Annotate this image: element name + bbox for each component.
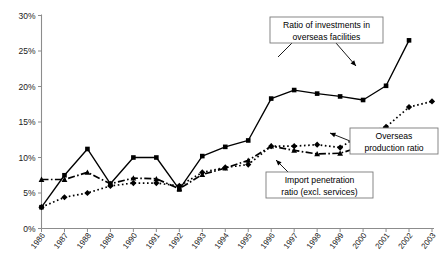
annotation-leader-line: [278, 43, 292, 57]
data-point-marker: [315, 91, 320, 96]
x-axis-tick-label: 1989: [98, 231, 116, 251]
data-point-marker: [154, 155, 159, 160]
data-point-marker: [61, 194, 67, 200]
data-point-marker: [361, 98, 366, 103]
x-axis-tick-label: 1997: [282, 231, 300, 251]
annotation-overseas-production-label: production ratio: [364, 143, 423, 153]
data-point-marker: [200, 154, 205, 159]
annotation-group: Ratio of investments inoverseas faciliti…: [266, 17, 438, 198]
data-point-marker: [84, 190, 90, 196]
annotation-import-penetration-label: Import penetration: [285, 175, 355, 185]
x-axis-tick-label: 1992: [167, 231, 185, 251]
y-axis-tick-label: 5%: [23, 188, 36, 198]
x-axis-tick-label: 1991: [144, 231, 162, 251]
data-point-marker: [269, 96, 274, 101]
x-axis-tick-label: 2001: [374, 231, 392, 251]
y-axis-tick-label: 25%: [18, 46, 35, 56]
x-axis: 1986198719881989199019911992199319941995…: [29, 229, 438, 251]
y-axis-tick-label: 15%: [18, 117, 35, 127]
data-point-marker: [246, 138, 251, 143]
data-point-marker: [384, 83, 389, 88]
annotation-overseas-production-label: Overseas: [376, 131, 413, 141]
annotation-import-penetration-label: ratio (excl. services): [281, 187, 358, 197]
x-axis-tick-label: 1990: [121, 231, 139, 251]
y-axis-tick-label: 10%: [18, 153, 35, 163]
data-point-marker: [314, 142, 320, 148]
data-point-marker: [292, 88, 297, 93]
x-axis-tick-label: 2003: [420, 231, 438, 251]
annotation-investments-label: overseas facilities: [293, 32, 361, 42]
data-point-marker: [407, 38, 412, 43]
x-axis-tick-label: 1995: [236, 231, 254, 251]
data-point-marker: [429, 98, 435, 104]
data-point-marker: [85, 147, 90, 152]
line-chart: 0%5%10%15%20%25%30% 19861987198819891990…: [0, 0, 445, 278]
x-axis-tick-label: 1998: [305, 231, 323, 251]
x-axis-tick-label: 1996: [259, 231, 277, 251]
data-series-group: [38, 38, 435, 210]
annotation-investments-label: Ratio of investments in: [283, 20, 370, 30]
data-point-marker: [131, 155, 136, 160]
y-axis: 0%5%10%15%20%25%30%: [18, 11, 41, 234]
x-axis-tick-label: 1994: [213, 231, 231, 251]
x-axis-tick-label: 1988: [75, 231, 93, 251]
x-axis-tick-label: 1993: [190, 231, 208, 251]
x-axis-tick-label: 2002: [397, 231, 415, 251]
y-axis-tick-label: 20%: [18, 82, 35, 92]
data-point-marker: [245, 157, 251, 162]
data-point-marker: [223, 145, 228, 150]
x-axis-tick-label: 1987: [52, 231, 70, 251]
x-axis-tick-label: 2000: [351, 231, 369, 251]
annotation-arrow-head: [330, 133, 336, 137]
chart-container: 0%5%10%15%20%25%30% 19861987198819891990…: [0, 0, 445, 278]
data-point-marker: [130, 180, 136, 186]
y-axis-tick-label: 0%: [23, 224, 36, 234]
x-axis-tick-label: 1986: [29, 231, 47, 251]
y-axis-tick-label: 30%: [18, 11, 35, 21]
x-axis-tick-label: 1999: [328, 231, 346, 251]
data-point-marker: [338, 94, 343, 99]
